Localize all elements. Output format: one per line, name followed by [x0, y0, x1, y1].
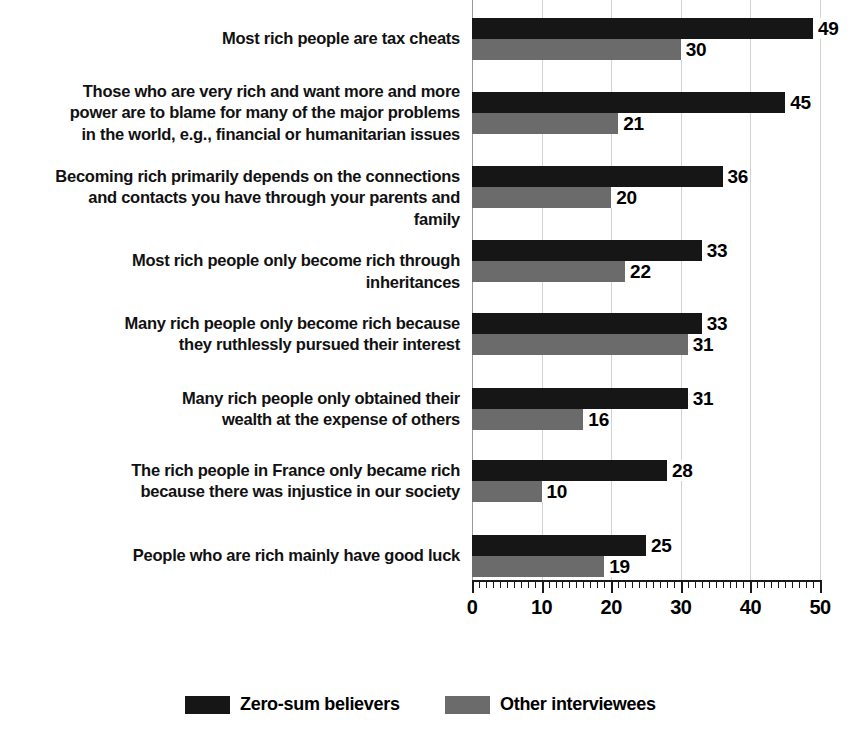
minor-tick-27 — [660, 582, 661, 588]
category-label-2: Becoming rich primarily depends on the c… — [40, 166, 460, 231]
minor-tick-31 — [688, 582, 689, 588]
minor-tick-4 — [500, 582, 501, 588]
bar-other-1 — [472, 113, 618, 134]
minor-tick-18 — [597, 582, 598, 588]
category-label-line: and contacts you have through your paren… — [40, 187, 460, 230]
bar-other-2 — [472, 187, 611, 208]
minor-tick-3 — [493, 582, 494, 588]
x-tick-label-0: 0 — [467, 596, 478, 619]
plot-area: 49304521362033223331311628102519 — [472, 0, 820, 581]
minor-tick-45 — [785, 582, 786, 588]
category-label-line: power are to blame for many of the major… — [40, 102, 460, 124]
minor-tick-46 — [792, 582, 793, 588]
bar-zero-sum-7 — [472, 535, 646, 556]
category-label-line: Most rich people only become rich throug… — [40, 250, 460, 293]
major-tick-10 — [542, 582, 544, 593]
minor-tick-6 — [514, 582, 515, 588]
bar-zero-sum-4 — [472, 313, 702, 334]
x-tick-label-40: 40 — [740, 596, 761, 619]
bar-value-label: 16 — [583, 409, 609, 430]
bar-value-label: 21 — [618, 113, 644, 134]
bar-value-label: 10 — [542, 481, 568, 502]
bar-value-label: 28 — [667, 460, 693, 481]
category-label-0: Most rich people are tax cheats — [40, 28, 460, 50]
category-label-line: Many rich people only become rich becaus… — [40, 313, 460, 335]
minor-tick-22 — [625, 582, 626, 588]
category-label-line: People who are rich mainly have good luc… — [40, 545, 460, 567]
bar-zero-sum-3 — [472, 240, 702, 261]
minor-tick-48 — [806, 582, 807, 588]
minor-tick-44 — [778, 582, 779, 588]
minor-tick-2 — [486, 582, 487, 588]
bar-zero-sum-2 — [472, 166, 723, 187]
legend-item-other-interviewees: Other interviewees — [445, 694, 656, 715]
gridline-50 — [820, 0, 821, 581]
legend-swatch-black — [185, 696, 230, 714]
minor-tick-49 — [813, 582, 814, 588]
minor-tick-43 — [771, 582, 772, 588]
bar-zero-sum-1 — [472, 92, 785, 113]
minor-tick-33 — [702, 582, 703, 588]
bar-value-label: 31 — [688, 388, 714, 409]
legend-label-other-interviewees: Other interviewees — [500, 694, 656, 715]
bar-value-label: 33 — [702, 240, 728, 261]
minor-tick-25 — [646, 582, 647, 588]
minor-tick-7 — [521, 582, 522, 588]
category-label-line: Most rich people are tax cheats — [40, 28, 460, 50]
bar-zero-sum-6 — [472, 460, 667, 481]
chart-legend: Zero-sum believers Other interviewees — [0, 694, 860, 724]
category-label-7: People who are rich mainly have good luc… — [40, 545, 460, 567]
gridline-20 — [611, 0, 612, 581]
x-tick-label-20: 20 — [601, 596, 622, 619]
bar-value-label: 25 — [646, 535, 672, 556]
minor-tick-42 — [764, 582, 765, 588]
bar-value-label: 30 — [681, 39, 707, 60]
minor-tick-36 — [723, 582, 724, 588]
bar-other-6 — [472, 481, 542, 502]
category-label-line: Becoming rich primarily depends on the c… — [40, 166, 460, 188]
category-label-line: wealth at the expense of others — [40, 409, 460, 431]
category-label-4: Many rich people only become rich becaus… — [40, 313, 460, 356]
category-label-line: The rich people in France only became ri… — [40, 460, 460, 482]
x-tick-label-10: 10 — [531, 596, 552, 619]
bar-value-label: 33 — [702, 313, 728, 334]
category-label-1: Those who are very rich and want more an… — [40, 81, 460, 146]
minor-tick-9 — [535, 582, 536, 588]
bar-other-7 — [472, 556, 604, 577]
major-tick-0 — [472, 582, 474, 593]
minor-tick-19 — [604, 582, 605, 588]
legend-label-zero-sum-believers: Zero-sum believers — [240, 694, 400, 715]
bar-zero-sum-5 — [472, 388, 688, 409]
minor-tick-47 — [799, 582, 800, 588]
bar-value-label: 20 — [611, 187, 637, 208]
bar-zero-sum-0 — [472, 18, 813, 39]
minor-tick-28 — [667, 582, 668, 588]
minor-tick-37 — [730, 582, 731, 588]
minor-tick-11 — [549, 582, 550, 588]
minor-tick-1 — [479, 582, 480, 588]
minor-tick-41 — [757, 582, 758, 588]
bar-other-4 — [472, 334, 688, 355]
bar-other-3 — [472, 261, 625, 282]
bar-value-label: 19 — [604, 556, 630, 577]
minor-tick-32 — [695, 582, 696, 588]
gridline-30 — [681, 0, 682, 581]
major-tick-20 — [611, 582, 613, 593]
minor-tick-13 — [562, 582, 563, 588]
bar-other-5 — [472, 409, 583, 430]
x-tick-label-30: 30 — [670, 596, 691, 619]
minor-tick-5 — [507, 582, 508, 588]
x-tick-label-50: 50 — [809, 596, 830, 619]
bar-value-label: 36 — [723, 166, 749, 187]
gridline-40 — [750, 0, 751, 581]
category-label-5: Many rich people only obtained theirweal… — [40, 388, 460, 431]
minor-tick-39 — [743, 582, 744, 588]
bar-chart: 49304521362033223331311628102519 Most ri… — [0, 0, 860, 737]
minor-tick-38 — [736, 582, 737, 588]
minor-tick-24 — [639, 582, 640, 588]
category-label-6: The rich people in France only became ri… — [40, 460, 460, 503]
minor-tick-34 — [709, 582, 710, 588]
legend-swatch-gray — [445, 696, 490, 714]
bar-value-label: 45 — [785, 92, 811, 113]
minor-tick-21 — [618, 582, 619, 588]
